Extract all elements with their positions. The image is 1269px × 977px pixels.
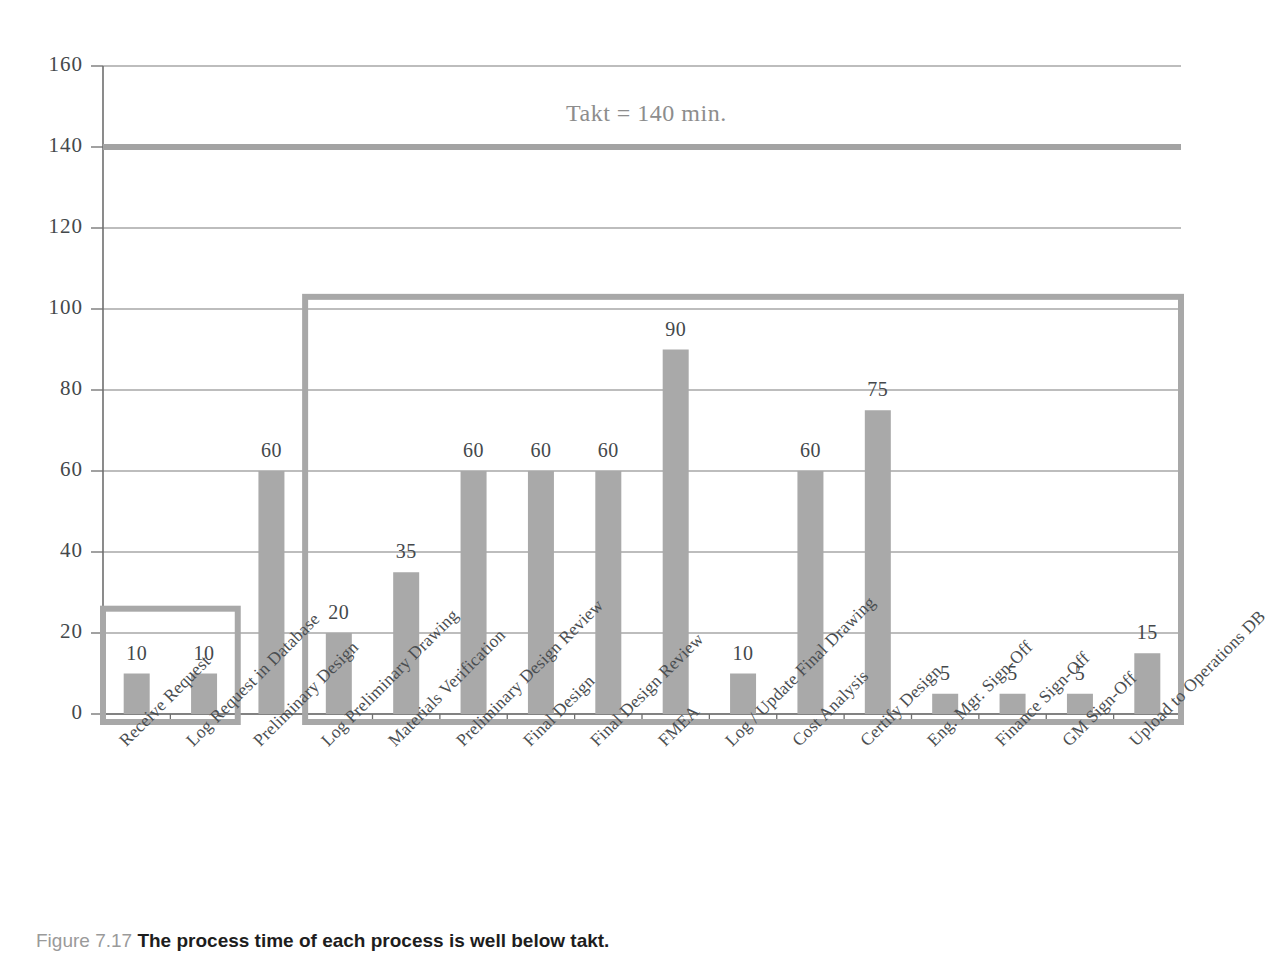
bar-value-label: 75 [848, 378, 908, 401]
bar-value-label: 60 [578, 439, 638, 462]
bar-value-label: 15 [1117, 621, 1177, 644]
bar-value-label: 10 [713, 642, 773, 665]
y-tick-label: 20 [23, 619, 83, 644]
y-tick-label: 100 [23, 295, 83, 320]
y-tick-label: 0 [23, 700, 83, 725]
figure-caption-text: The process time of each process is well… [137, 930, 609, 951]
y-tick-label: 120 [23, 214, 83, 239]
y-tick-label: 60 [23, 457, 83, 482]
figure-number: Figure 7.17 [36, 930, 132, 951]
y-tick-label: 160 [23, 52, 83, 77]
takt-line-label: Takt = 140 min. [566, 100, 727, 127]
gridlines-group [91, 66, 1181, 714]
bar-value-label: 60 [780, 439, 840, 462]
bar [595, 471, 621, 714]
y-tick-label: 80 [23, 376, 83, 401]
bar-value-label: 35 [376, 540, 436, 563]
bar-value-label: 60 [241, 439, 301, 462]
figure-caption: Figure 7.17 The process time of each pro… [36, 930, 609, 952]
bar [865, 410, 891, 714]
bar-value-label: 90 [646, 318, 706, 341]
bar-value-label: 60 [511, 439, 571, 462]
bar-value-label: 10 [107, 642, 167, 665]
bar-value-label: 60 [444, 439, 504, 462]
y-tick-label: 140 [23, 133, 83, 158]
y-tick-label: 40 [23, 538, 83, 563]
